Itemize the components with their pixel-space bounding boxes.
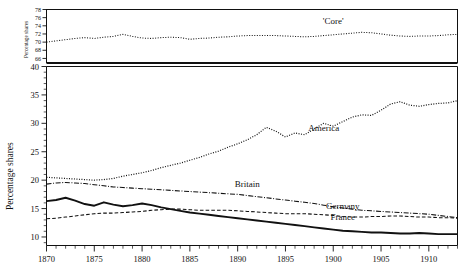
main-panel-x-ticks xyxy=(47,246,458,252)
main-x-tick-label: 1900 xyxy=(325,254,342,264)
series-label-france: France xyxy=(331,212,356,222)
main-y-tick-label: 40 xyxy=(31,62,40,72)
top-y-tick-label: 68 xyxy=(35,47,41,53)
main-y-tick-label: 35 xyxy=(31,90,40,100)
main-y-axis-title: Percentage shares xyxy=(5,142,15,210)
top-y-tick-label: 78 xyxy=(35,7,41,13)
main-x-tick-label: 1895 xyxy=(277,254,294,264)
series-line-core xyxy=(47,32,458,42)
series-line-america xyxy=(47,101,458,181)
top-panel-y-tick-labels: 66687072747678 xyxy=(35,7,41,62)
top-panel-y-ticks xyxy=(43,10,47,59)
top-panel-y-axis-title: Percentage shares xyxy=(23,21,29,58)
main-x-tick-label: 1875 xyxy=(86,254,103,264)
series-label-germany: Germany xyxy=(326,201,360,211)
main-x-tick-label: 1910 xyxy=(420,254,437,264)
main-y-tick-label: 30 xyxy=(31,118,40,128)
series-line-germany xyxy=(47,209,458,219)
chart-figure: 66687072747678 Percentage shares 'Core' … xyxy=(0,0,466,273)
main-y-tick-label: 10 xyxy=(31,232,40,242)
top-panel: 66687072747678 Percentage shares 'Core' xyxy=(23,7,458,63)
main-x-tick-label: 1905 xyxy=(373,254,390,264)
top-y-tick-label: 70 xyxy=(35,39,41,45)
top-y-tick-label: 72 xyxy=(35,31,41,37)
main-x-tick-label: 1885 xyxy=(181,254,198,264)
main-panel-y-ticks xyxy=(42,67,47,243)
main-y-tick-label: 20 xyxy=(31,175,40,185)
series-label-core: 'Core' xyxy=(323,16,344,26)
main-x-tick-label: 1880 xyxy=(134,254,151,264)
top-y-tick-label: 76 xyxy=(35,15,41,21)
series-label-britain: Britain xyxy=(235,179,260,189)
share-of-world-manufacturing-line-chart: 66687072747678 Percentage shares 'Core' … xyxy=(0,0,466,273)
main-panel: 10152025303540 1870187518801885189018951… xyxy=(5,62,458,264)
series-label-america: America xyxy=(308,123,339,133)
top-y-tick-label: 74 xyxy=(35,23,41,29)
main-x-tick-label: 1890 xyxy=(229,254,246,264)
main-y-tick-label: 15 xyxy=(31,204,40,214)
main-panel-y-tick-labels: 10152025303540 xyxy=(31,62,40,242)
main-panel-x-tick-labels: 187018751880188518901895190019051910 xyxy=(38,254,437,264)
main-y-tick-label: 25 xyxy=(31,147,40,157)
main-x-tick-label: 1870 xyxy=(38,254,55,264)
